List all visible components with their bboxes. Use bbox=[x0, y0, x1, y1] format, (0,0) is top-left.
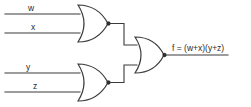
input-label-z: z bbox=[33, 82, 37, 91]
input-label-y: y bbox=[26, 63, 30, 72]
wire-or1-to-and bbox=[109, 24, 137, 46]
logic-circuit-diagram: w x y z f = (w+x)(y+z) bbox=[0, 0, 251, 107]
output-expression-label: f = (w+x)(y+z) bbox=[172, 44, 224, 53]
and-gate-output[interactable] bbox=[135, 37, 164, 73]
input-label-w: w bbox=[28, 4, 34, 13]
or-gate-2[interactable] bbox=[78, 64, 108, 101]
input-label-x: x bbox=[31, 23, 35, 32]
wire-or2-to-and bbox=[109, 65, 137, 83]
or-gate-1[interactable] bbox=[78, 5, 108, 42]
circuit-canvas bbox=[0, 0, 251, 107]
